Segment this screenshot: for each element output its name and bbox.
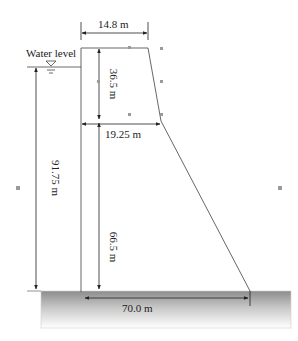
lower-height-label: 66.5 m — [108, 232, 120, 263]
handle-bottom-mid[interactable] — [128, 113, 131, 116]
water-level-label: Water level — [26, 47, 76, 59]
handle-top-mid[interactable] — [128, 46, 131, 49]
upper-height-label: 36.5 m — [108, 69, 120, 100]
water-depth-label: 91.75 m — [50, 160, 62, 197]
crest-width-label: 14.8 m — [98, 18, 129, 30]
base-width-label: 70.0 m — [122, 302, 153, 314]
handle-top-right[interactable] — [160, 47, 163, 50]
handle-mid-left[interactable] — [97, 80, 100, 83]
foundation-ground — [27, 291, 291, 328]
handle-bottom-right[interactable] — [160, 113, 163, 116]
handle-right[interactable] — [278, 186, 282, 190]
break-width-label: 19.25 m — [105, 128, 142, 140]
handle-left[interactable] — [16, 186, 20, 190]
dam-diagram: 14.8 m Water level 91.75 m 36.5 m 66.5 m… — [0, 0, 298, 341]
dam-body — [81, 48, 250, 292]
handle-mid-right[interactable] — [160, 80, 163, 83]
water-level-marker — [27, 61, 81, 73]
